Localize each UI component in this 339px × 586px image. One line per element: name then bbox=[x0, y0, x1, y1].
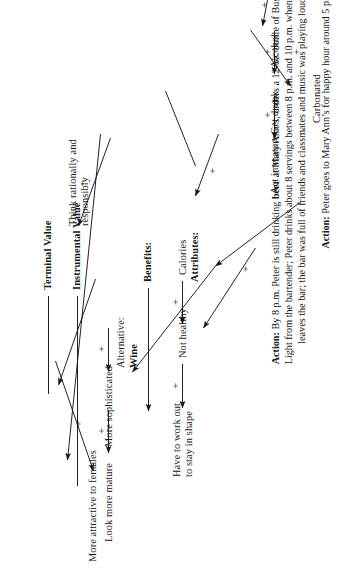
edge-rum-connector bbox=[165, 91, 195, 166]
node-have-to-work-out: Have to work out to stay in shape bbox=[170, 403, 195, 477]
action-beer-keyword: beer bbox=[269, 180, 280, 199]
diagram-canvas: Terminal Value Instrumental Value Benefi… bbox=[0, 0, 339, 586]
node-not-healthy: Not healthy bbox=[176, 308, 188, 358]
sign-attractive: + bbox=[72, 421, 83, 427]
level-label-attributes: Attributes: bbox=[188, 232, 200, 282]
sign-calories: + bbox=[206, 168, 217, 174]
sign-not-healthy: + bbox=[169, 299, 180, 305]
action-beer-text: By 8 p.m. Peter is still drinking bbox=[269, 199, 280, 332]
sign-look-mature: + bbox=[95, 428, 106, 434]
sign-sophisticated: + bbox=[95, 346, 106, 352]
level-label-terminal-value: Terminal Value bbox=[41, 221, 53, 290]
level-label-benefits: Benefits: bbox=[141, 242, 153, 282]
node-calories: Calories bbox=[176, 240, 188, 275]
means-end-chain-figure: Terminal Value Instrumental Value Benefi… bbox=[0, 0, 339, 586]
alternative-prefix: Alternative: bbox=[114, 317, 125, 368]
action-happy-hour-text: Peter goes to Mary Ann’s for happy hour … bbox=[319, 0, 330, 216]
sign-drunk-healthy: + bbox=[239, 266, 250, 272]
alternative-value: Wine bbox=[127, 344, 138, 368]
node-more-attractive-to-females: More attractive to females bbox=[86, 450, 98, 562]
sign-work-out: + bbox=[169, 383, 180, 389]
sign-alcohol-attr: + bbox=[258, 2, 269, 8]
action-beer-label: Action: bbox=[269, 332, 280, 364]
node-look-more-mature: Look more mature bbox=[102, 463, 114, 542]
edge-getdrunk-to-nothealthy bbox=[203, 248, 255, 328]
action-beer: Action: By 8 p.m. Peter is still drinkin… bbox=[268, 0, 308, 378]
sign-think-rationally: – bbox=[75, 181, 86, 187]
action-happy-hour: Action: Peter goes to Mary Ann’s for hap… bbox=[318, 0, 331, 318]
action-happy-hour-label: Action: bbox=[319, 216, 330, 248]
node-more-sophisticated: More sophisticated bbox=[102, 366, 114, 447]
edge-alcohol-to-calories bbox=[195, 134, 218, 196]
node-alternative-wine: Alternative: Wine bbox=[102, 317, 139, 368]
